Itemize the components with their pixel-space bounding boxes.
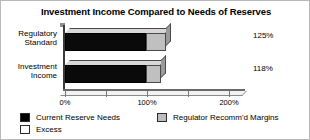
x-axis-base: [60, 91, 247, 96]
bar-cap-side: [166, 23, 171, 46]
value-label-investment-income: 118%: [253, 64, 273, 73]
black-swatch-icon: [20, 113, 30, 122]
gray-swatch-icon: [157, 113, 167, 122]
x-tick-label-0: 0%: [48, 98, 82, 107]
bar-cap-top: [65, 28, 171, 33]
white-swatch-icon: [20, 125, 30, 134]
category-label-line1: Regulatory: [1, 29, 57, 38]
bar-segment-regulator-margins: [146, 65, 161, 83]
x-axis-tick: [65, 91, 66, 97]
chart-container: Investment Income Compared to Needs of R…: [0, 0, 310, 140]
bar-segment-current-reserve-needs: [65, 33, 146, 51]
category-label-line1: Investment: [1, 62, 57, 71]
legend-label: Current Reserve Needs: [36, 112, 120, 123]
x-axis-tick: [229, 91, 230, 97]
plot-area: [63, 27, 243, 89]
category-label-investment-income: Investment Income: [1, 62, 57, 80]
bar-segment-regulator-margins: [146, 33, 166, 51]
chart-title: Investment Income Compared to Needs of R…: [1, 6, 310, 17]
bar-segment-current-reserve-needs: [65, 65, 146, 83]
bar-cap-top: [65, 60, 166, 65]
value-label-regulatory-standard: 125%: [253, 31, 273, 40]
x-tick-label-100: 100%: [130, 98, 164, 107]
legend-label: Regulator Recomm'd Margins: [173, 112, 279, 123]
category-label-line2: Standard: [1, 38, 57, 47]
x-axis-tick: [106, 91, 107, 97]
legend-label: Excess: [36, 124, 62, 135]
x-tick-label-200: 200%: [212, 98, 246, 107]
bar-cap-side: [161, 55, 166, 78]
x-axis-tick: [188, 91, 189, 97]
chart-legend: Current Reserve Needs Excess Regulator R…: [1, 112, 310, 138]
category-label-line2: Income: [1, 71, 57, 80]
x-axis-tick: [147, 91, 148, 97]
category-label-regulatory-standard: Regulatory Standard: [1, 29, 57, 47]
